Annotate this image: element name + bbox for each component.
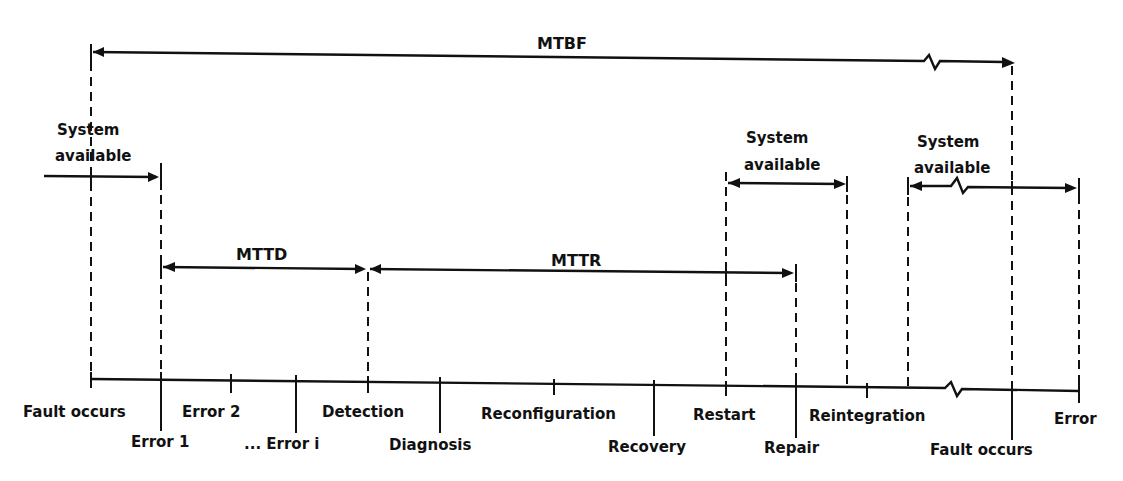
mttr-label: MTTR — [551, 251, 601, 270]
event-label-fault-occurs: Fault occurs — [23, 403, 126, 421]
event-label-repair: Repair — [764, 439, 820, 457]
mtbf-label: MTBF — [537, 34, 587, 53]
available-interval-2: System available — [728, 129, 847, 192]
mttd-line — [163, 267, 362, 269]
fault-timeline-diagram: MTBF System available MTTD MTTR — [0, 0, 1123, 481]
mtbf-right-arrowhead — [1002, 57, 1015, 68]
available-2-right-arrowhead — [834, 179, 846, 189]
upper-event-labels: Fault occurs Error 2 Detection Reconfigu… — [23, 403, 1097, 428]
available-1-label-line2: available — [55, 147, 131, 165]
available-3-label-line1: System — [917, 133, 979, 151]
guide-lines — [91, 62, 1079, 390]
time-axis-line — [91, 379, 1079, 396]
mtbf-line-with-break — [93, 52, 1004, 69]
event-label-reintegration: Reintegration — [809, 407, 925, 425]
event-label-recovery: Recovery — [608, 438, 686, 456]
available-3-label-line2: available — [914, 159, 990, 177]
available-interval-3: System available — [908, 133, 1079, 198]
event-label-error: Error — [1054, 410, 1097, 428]
lower-event-labels: Error 1 ... Error i Diagnosis Recovery R… — [131, 433, 1033, 459]
mtbf-interval: MTBF — [91, 34, 1015, 69]
mttd-interval: MTTD — [161, 245, 366, 276]
available-interval-1: System available — [44, 121, 161, 190]
available-3-right-arrowhead — [1065, 183, 1077, 193]
event-label-diagnosis: Diagnosis — [389, 436, 472, 454]
available-1-line — [44, 176, 156, 177]
mttr-right-arrowhead — [782, 268, 794, 278]
event-label-error-2: Error 2 — [182, 403, 240, 421]
mttr-interval: MTTR — [370, 251, 796, 282]
available-1-arrowhead — [148, 172, 159, 182]
available-1-label-line1: System — [57, 121, 119, 139]
event-label-restart: Restart — [693, 406, 756, 424]
mttd-right-arrowhead — [355, 264, 366, 274]
available-2-label-line2: available — [744, 156, 820, 174]
available-3-line-with-break — [910, 178, 1072, 193]
event-label-reconfiguration: Reconfiguration — [481, 405, 616, 423]
event-label-detection: Detection — [322, 403, 404, 421]
event-label-next-fault-occurs: Fault occurs — [930, 441, 1033, 459]
mttd-label: MTTD — [236, 245, 287, 264]
event-label-error-1: Error 1 — [131, 433, 189, 451]
event-label-error-i: ... Error i — [244, 435, 319, 453]
available-2-line — [728, 183, 842, 184]
available-2-label-line1: System — [746, 129, 808, 147]
